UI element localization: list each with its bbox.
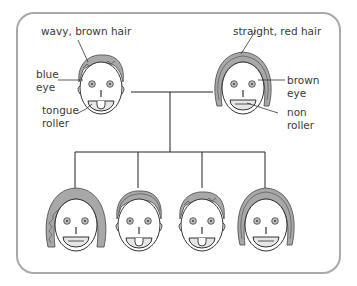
parent-1-face <box>78 55 124 114</box>
parent-1-tongue-label-line2: roller <box>42 117 69 129</box>
child-2-face <box>116 191 162 251</box>
parent-2-eye-label-line2: eye <box>287 87 306 99</box>
child-4-face <box>238 188 294 251</box>
child-1-face <box>46 188 106 251</box>
parent-2-tongue-label-line2: roller <box>287 119 314 131</box>
parent-2-face <box>215 52 271 114</box>
parent-2-eye-label-line1: brown <box>287 74 319 86</box>
parent-1-eye-label-line1: blue <box>36 68 59 80</box>
parent-1-eye-label-line2: eye <box>36 81 55 93</box>
parent-2-hair-label: straight, red hair <box>233 25 321 37</box>
parent-1-tongue-label-line1: tongue <box>42 104 79 116</box>
parent-2-tongue-label-line1: non <box>287 106 307 118</box>
pedigree-diagram <box>0 0 357 286</box>
child-3-face <box>179 192 225 251</box>
parent-1-hair-label: wavy, brown hair <box>41 25 131 37</box>
